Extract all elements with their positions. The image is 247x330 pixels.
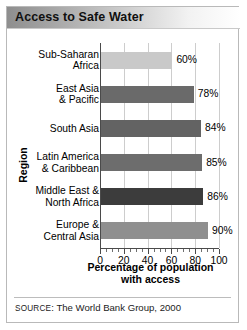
bar [101,154,202,171]
category-label-line: Latin America [23,151,99,163]
x-axis-title-line2: with access [63,273,238,285]
y-axis-category-label: Latin America& Caribbean [23,151,99,174]
category-label-line: Middle East & [23,185,99,197]
x-axis-minor-tick [106,249,107,252]
x-axis-minor-tick [142,249,143,252]
x-axis-major-tick [171,249,172,254]
x-axis-minor-tick [213,249,214,252]
x-axis-minor-tick [201,249,202,252]
x-axis-major-tick [100,249,101,254]
y-axis-category-label: East Asia& Pacific [23,83,99,106]
bar-value-label: 60% [176,54,197,65]
page-title: Access to Safe Water [15,10,144,24]
x-axis-title: Percentage of population with access [63,261,238,285]
bars-plot-area: 60%78%84%85%86%90% [100,43,219,248]
bar [101,86,194,103]
chart-figure: Access to Safe Water Region Sub-SaharanA… [6,6,239,323]
x-axis-minor-tick [160,249,161,252]
category-label-line: Central Asia [23,231,99,243]
x-axis-minor-tick [136,249,137,252]
x-axis-minor-tick [183,249,184,252]
bar-value-label: 85% [206,157,227,168]
y-axis-category-label: Europe &Central Asia [23,219,99,242]
gridline [171,43,172,248]
y-axis-category-labels: Sub-SaharanAfricaEast Asia& PacificSouth… [23,43,99,248]
x-axis-major-tick [148,249,149,254]
bar-value-label: 84% [205,122,226,133]
source-label: SOURCE [15,304,51,313]
category-label-line: North Africa [23,197,99,209]
x-axis-minor-tick [154,249,155,252]
bar-value-label: 78% [198,88,219,99]
y-axis-category-label: Sub-SaharanAfrica [23,49,99,72]
category-label-line: Europe & [23,219,99,231]
source-divider [14,297,231,298]
y-axis-category-label: South Asia [23,123,99,135]
x-axis-minor-tick [118,249,119,252]
x-axis-title-line1: Percentage of population [63,261,238,273]
source-value: : The World Bank Group, 2000 [51,302,181,313]
chart-title-bar: Access to Safe Water [7,7,240,29]
gridline [219,43,220,248]
bar-value-label: 90% [212,225,233,236]
category-label-line: & Pacific [23,94,99,106]
bar-value-label: 86% [207,191,228,202]
x-axis-minor-tick [189,249,190,252]
category-label-line: Sub-Saharan [23,49,99,61]
source-note: SOURCE: The World Bank Group, 2000 [15,302,181,313]
category-label-line: & Caribbean [23,163,99,175]
x-axis-minor-tick [177,249,178,252]
bar [101,188,203,205]
y-axis-line [100,43,101,249]
x-axis-major-tick [195,249,196,254]
category-label-line: South Asia [23,123,99,135]
x-axis-minor-tick [207,249,208,252]
y-axis-category-label: Middle East &North Africa [23,185,99,208]
category-label-line: Africa [23,60,99,72]
chart-plot-region: Region Sub-SaharanAfricaEast Asia& Pacif… [7,29,240,291]
category-label-line: East Asia [23,83,99,95]
bar [101,222,208,239]
x-axis-minor-tick [130,249,131,252]
x-axis-major-tick [219,249,220,254]
x-axis-minor-tick [165,249,166,252]
gridline [148,43,149,248]
x-axis-major-tick [124,249,125,254]
gridline [195,43,196,248]
gridline [124,43,125,248]
x-axis-minor-tick [112,249,113,252]
bar [101,120,201,137]
bar [101,52,172,69]
